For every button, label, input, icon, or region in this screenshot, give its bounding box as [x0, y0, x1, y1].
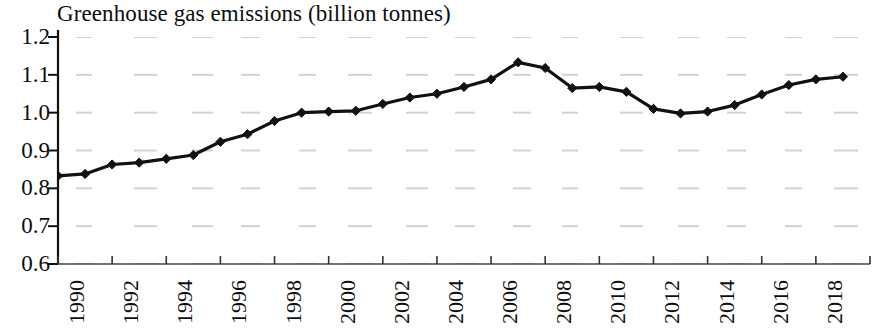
x-axis-tick-label: 2014: [716, 280, 738, 324]
x-axis-tick-label: 2010: [607, 280, 629, 324]
x-axis-tick-label: 2012: [661, 280, 683, 324]
chart-figure: Greenhouse gas emissions (billion tonnes…: [0, 0, 878, 329]
x-axis-tick-label: 1994: [174, 280, 196, 324]
x-axis-tick-label: 2004: [445, 280, 467, 324]
x-axis-tick-label: 2018: [824, 280, 846, 324]
x-axis-tick-label: 2016: [770, 280, 792, 324]
x-axis-tick-label: 1990: [66, 280, 88, 324]
x-axis-tick-label: 2008: [553, 280, 575, 324]
x-axis-tick-label: 2006: [499, 280, 521, 324]
x-axis-tick-label: 1998: [283, 280, 305, 324]
x-axis-tick-label: 1992: [120, 280, 142, 324]
x-axis-tick-label: 2002: [391, 280, 413, 324]
x-axis-tick-label: 1996: [228, 280, 250, 324]
x-axis-tick-label: 2000: [337, 280, 359, 324]
x-axis-tick-labels: 1990199219941996199820002002200420062008…: [0, 0, 878, 329]
